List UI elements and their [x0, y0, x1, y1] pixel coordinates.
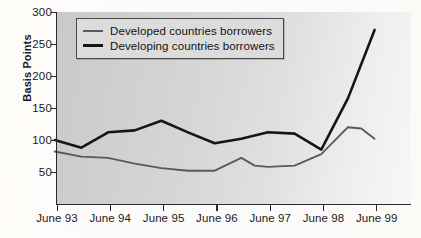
y-tick-mark	[51, 76, 57, 77]
x-tick-label: June 99	[356, 212, 398, 224]
chart-page: Basis Points 30025020015010050 Developed…	[0, 0, 421, 238]
x-tick-label: June 95	[143, 212, 185, 224]
legend-item-developed: Developed countries borrowers	[83, 23, 275, 38]
legend-label-developing: Developing countries borrowers	[110, 40, 275, 52]
x-tick-label: June 96	[196, 212, 238, 224]
y-tick-label: 100	[22, 134, 52, 146]
y-tick-label: 250	[22, 38, 52, 50]
y-tick-mark	[51, 44, 57, 45]
y-tick-mark	[51, 140, 57, 141]
y-tick-label: 50	[22, 166, 52, 178]
y-tick-mark	[51, 12, 57, 13]
y-tick-mark	[51, 172, 57, 173]
y-tick-label: 300	[22, 6, 52, 18]
y-tick-label: 150	[22, 102, 52, 114]
x-tick-label: June 98	[303, 212, 345, 224]
x-tick-mark	[57, 205, 58, 211]
y-axis-tick-labels: 30025020015010050	[22, 0, 52, 238]
legend-swatch-developing	[83, 44, 103, 47]
x-tick-mark	[270, 205, 271, 211]
x-tick-mark	[323, 205, 324, 211]
y-tick-mark	[51, 108, 57, 109]
line-chart: Basis Points 30025020015010050 Developed…	[0, 0, 421, 238]
plot-area: Developed countries borrowers Developing…	[57, 12, 411, 204]
legend-item-developing: Developing countries borrowers	[83, 38, 275, 53]
legend-swatch-developed	[83, 30, 103, 32]
x-tick-mark	[163, 205, 164, 211]
x-tick-mark	[376, 205, 377, 211]
x-tick-label: June 93	[36, 212, 78, 224]
x-tick-mark	[216, 205, 217, 211]
chart-legend: Developed countries borrowers Developing…	[76, 18, 284, 59]
x-tick-label: June 97	[249, 212, 291, 224]
x-tick-mark	[110, 205, 111, 211]
legend-label-developed: Developed countries borrowers	[110, 25, 272, 37]
y-tick-label: 200	[22, 70, 52, 82]
x-tick-label: June 94	[89, 212, 131, 224]
series-line-developed	[55, 127, 375, 171]
